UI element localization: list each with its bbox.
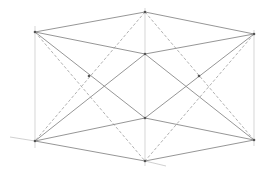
vertex-point-ml bbox=[144, 117, 147, 120]
solid-edge bbox=[35, 141, 145, 161]
vertex-point-xr bbox=[198, 75, 201, 78]
solid-edge bbox=[145, 118, 254, 140]
solid-edge bbox=[145, 140, 254, 161]
dashed-edge bbox=[35, 32, 145, 161]
axis-line bbox=[145, 161, 166, 166]
solid-edge bbox=[145, 34, 254, 54]
vertex-point-tr bbox=[253, 33, 256, 36]
solid-edge bbox=[35, 12, 145, 32]
vertex-markers bbox=[34, 11, 256, 163]
geometry-diagram bbox=[0, 0, 270, 175]
vertex-point-bc bbox=[144, 160, 147, 163]
solid-edge bbox=[35, 54, 145, 141]
axis-line bbox=[10, 137, 35, 141]
axis-lines bbox=[10, 137, 166, 166]
vertex-point-tl bbox=[34, 31, 37, 34]
hidden-edges bbox=[35, 12, 254, 161]
vertical-guides bbox=[35, 8, 254, 166]
solid-edge bbox=[35, 32, 145, 118]
solid-edge bbox=[145, 54, 254, 140]
wireframe-figure bbox=[0, 0, 270, 175]
vertex-point-tc bbox=[144, 11, 147, 14]
solid-edge bbox=[35, 118, 145, 141]
visible-edges bbox=[35, 12, 254, 161]
vertex-point-xl bbox=[88, 75, 91, 78]
vertex-point-mu bbox=[144, 53, 147, 56]
vertex-point-br bbox=[253, 139, 256, 142]
solid-edge bbox=[35, 32, 145, 54]
solid-edge bbox=[145, 12, 254, 34]
vertex-point-bl bbox=[34, 140, 37, 143]
